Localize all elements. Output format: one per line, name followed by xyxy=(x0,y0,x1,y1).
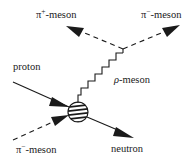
feynman-diagram: π+-meson π−-meson proton ρ-meson π−-meso… xyxy=(0,0,195,158)
pi-plus-meson-label: π+-meson xyxy=(36,7,77,20)
rho-meson-label: ρ-meson xyxy=(113,74,151,85)
pi-minus-out-meson-label: π−-meson xyxy=(141,7,182,20)
neutron-label: neutron xyxy=(111,143,144,154)
pi-plus-meson-line xyxy=(66,26,123,49)
pi-minus-in-meson-line xyxy=(13,115,69,140)
interaction-vertex-blob xyxy=(60,100,96,128)
neutron-line xyxy=(87,117,134,138)
pi-minus-in-arrowhead xyxy=(51,115,69,126)
pi-minus-out-meson-line xyxy=(123,25,180,49)
pi-plus-arrowhead xyxy=(66,26,84,37)
pi-minus-in-meson-label: π−-meson xyxy=(16,142,57,155)
pi-minus-out-arrowhead xyxy=(162,25,180,37)
proton-label: proton xyxy=(13,61,41,72)
neutron-arrowhead xyxy=(113,127,134,138)
proton-arrowhead xyxy=(49,97,69,107)
proton-line xyxy=(13,82,69,107)
